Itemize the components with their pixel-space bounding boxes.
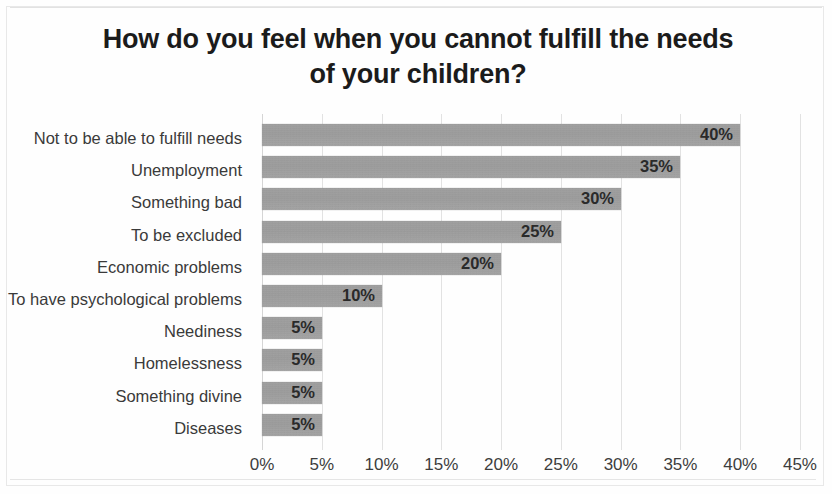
bar-row: Something divine5% bbox=[0, 382, 832, 414]
bar-value-label: 10% bbox=[342, 285, 375, 307]
bar-row: Not to be able to fulfill needs40% bbox=[0, 124, 832, 156]
bar[interactable]: 5% bbox=[262, 317, 322, 339]
bar-value-label: 30% bbox=[581, 188, 614, 210]
bar-value-label: 5% bbox=[291, 317, 315, 339]
category-label: Homelessness bbox=[0, 352, 242, 374]
bar-container: 20% bbox=[262, 253, 501, 275]
category-label: Something divine bbox=[0, 385, 242, 407]
x-tick-label: 0% bbox=[232, 455, 292, 475]
x-tick-label: 5% bbox=[292, 455, 352, 475]
bar-value-label: 20% bbox=[461, 253, 494, 275]
plot-area: Not to be able to fulfill needs40%Unempl… bbox=[0, 0, 832, 494]
bar[interactable]: 20% bbox=[262, 253, 501, 275]
category-label: Unemployment bbox=[0, 159, 242, 181]
bar[interactable]: 30% bbox=[262, 188, 621, 210]
category-label: Neediness bbox=[0, 320, 242, 342]
bar[interactable]: 25% bbox=[262, 221, 561, 243]
bar[interactable]: 10% bbox=[262, 285, 382, 307]
bar-row: Economic problems20% bbox=[0, 253, 832, 285]
bar-container: 5% bbox=[262, 414, 322, 436]
bar-value-label: 5% bbox=[291, 414, 315, 436]
category-label: Something bad bbox=[0, 191, 242, 213]
category-label: Economic problems bbox=[0, 256, 242, 278]
bar[interactable]: 5% bbox=[262, 349, 322, 371]
bar-container: 5% bbox=[262, 382, 322, 404]
x-tick-label: 10% bbox=[352, 455, 412, 475]
x-tick-label: 20% bbox=[471, 455, 531, 475]
bar-row: To have psychological problems10% bbox=[0, 285, 832, 317]
chart-page: How do you feel when you cannot fulfill … bbox=[0, 0, 832, 494]
bar[interactable]: 5% bbox=[262, 382, 322, 404]
x-tick-label: 30% bbox=[591, 455, 651, 475]
bar[interactable]: 5% bbox=[262, 414, 322, 436]
bar-value-label: 5% bbox=[291, 349, 315, 371]
x-tick-label: 15% bbox=[411, 455, 471, 475]
x-tick-label: 35% bbox=[650, 455, 710, 475]
bar-container: 30% bbox=[262, 188, 621, 210]
bar-container: 35% bbox=[262, 156, 680, 178]
category-label: To be excluded bbox=[0, 224, 242, 246]
category-label: To have psychological problems bbox=[0, 288, 242, 310]
bar-container: 25% bbox=[262, 221, 561, 243]
x-tick-label: 25% bbox=[531, 455, 591, 475]
x-tick-label: 45% bbox=[770, 455, 830, 475]
bar-row: To be excluded25% bbox=[0, 221, 832, 253]
bar-value-label: 40% bbox=[700, 124, 733, 146]
bar-value-label: 35% bbox=[640, 156, 673, 178]
bar-container: 10% bbox=[262, 285, 382, 307]
bar-container: 5% bbox=[262, 349, 322, 371]
bar-row: Homelessness5% bbox=[0, 349, 832, 381]
category-label: Not to be able to fulfill needs bbox=[0, 127, 242, 149]
bar-row: Unemployment35% bbox=[0, 156, 832, 188]
bar[interactable]: 35% bbox=[262, 156, 680, 178]
bar-value-label: 5% bbox=[291, 382, 315, 404]
bar-container: 5% bbox=[262, 317, 322, 339]
bar[interactable]: 40% bbox=[262, 124, 740, 146]
bar-container: 40% bbox=[262, 124, 740, 146]
bar-row: Diseases5% bbox=[0, 414, 832, 446]
bar-value-label: 25% bbox=[521, 221, 554, 243]
bar-row: Neediness5% bbox=[0, 317, 832, 349]
bar-row: Something bad30% bbox=[0, 188, 832, 220]
category-label: Diseases bbox=[0, 417, 242, 439]
x-tick-label: 40% bbox=[710, 455, 770, 475]
